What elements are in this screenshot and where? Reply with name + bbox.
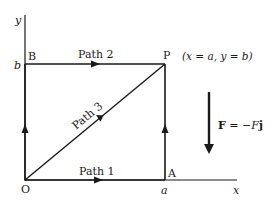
y-tick-b: b [14,59,21,72]
x-tick-a: a [161,184,168,197]
left-side-arrow-icon [22,124,29,133]
path-3-line [25,64,165,180]
force-unit-j: j [258,119,263,132]
work-paths-diagram: y x b a B P A O Path 2 Path 1 Path 3 (x … [0,0,277,204]
point-p-label: P [163,49,171,62]
point-b-label: B [28,50,36,63]
y-axis-label: y [14,14,22,27]
point-o-label: O [21,183,30,196]
path-2-label: Path 2 [78,48,113,61]
force-arrow-head-icon [204,144,214,154]
path-2-arrow-icon [91,61,100,68]
p-coordinates-label: (x = a, y = b) [182,50,253,62]
force-equals: = − [226,119,251,132]
force-italic-f: F [250,119,259,132]
x-axis-label: x [233,184,240,197]
path-1-label: Path 1 [79,165,114,178]
force-bold-f: F [218,119,226,132]
right-side-arrow-icon [162,124,169,133]
force-equation: F = −Fj [218,119,263,132]
point-a-label: A [167,167,177,180]
